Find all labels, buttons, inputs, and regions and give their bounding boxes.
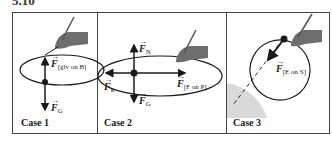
hand-icon [55, 17, 88, 49]
force-label-f-on-p: →F[F on P] [177, 78, 207, 91]
case3-diagram [227, 14, 322, 118]
force-label-gravity: →FG [139, 95, 151, 108]
case2-diagram [98, 30, 222, 102]
case-2-label: Case 2 [104, 117, 132, 128]
force-label-gravity: →FG [51, 102, 63, 115]
force-label-friction: →Fk [104, 81, 114, 94]
force-label-glv-on-b: →F[glv on B] [51, 58, 86, 71]
case-1-label: Case 1 [21, 117, 49, 128]
case-3-label: Case 3 [233, 117, 261, 128]
hand-icon [291, 14, 322, 46]
force-label-normal: →FN [139, 43, 151, 56]
earth-shape [227, 83, 267, 118]
force-label-e-on-s: →F[E on S] [276, 63, 306, 76]
hand-icon [176, 30, 208, 62]
